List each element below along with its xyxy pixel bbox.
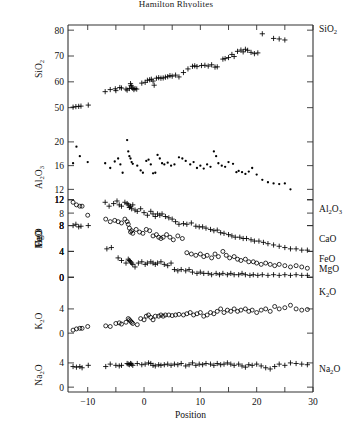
y-axis-label-Na2O: Na2O bbox=[34, 364, 45, 385]
data-point bbox=[130, 202, 135, 207]
data-point bbox=[108, 324, 112, 328]
data-point bbox=[78, 104, 83, 109]
data-point bbox=[185, 251, 189, 255]
data-point bbox=[260, 31, 265, 36]
data-point bbox=[128, 259, 133, 264]
data-point bbox=[163, 75, 168, 80]
data-point bbox=[136, 164, 138, 166]
data-point bbox=[152, 172, 154, 174]
data-point bbox=[208, 227, 213, 232]
data-point bbox=[86, 102, 91, 107]
data-point bbox=[305, 266, 309, 270]
data-point bbox=[127, 258, 132, 263]
data-point bbox=[232, 272, 237, 277]
data-point bbox=[139, 362, 144, 367]
data-point bbox=[271, 242, 276, 247]
y-tick-label-MgO: 4 bbox=[59, 247, 64, 257]
data-point bbox=[214, 271, 219, 276]
data-point bbox=[299, 248, 304, 253]
data-point bbox=[264, 307, 268, 311]
data-point bbox=[294, 272, 299, 277]
data-point bbox=[119, 363, 124, 368]
data-point bbox=[215, 227, 220, 232]
series-K2O bbox=[71, 303, 309, 332]
data-point bbox=[223, 56, 228, 61]
data-point bbox=[271, 36, 276, 41]
data-point bbox=[268, 309, 272, 313]
data-point bbox=[107, 204, 112, 209]
data-point bbox=[162, 362, 167, 367]
data-point bbox=[127, 362, 132, 367]
data-point bbox=[267, 181, 269, 183]
data-point bbox=[221, 231, 226, 236]
data-point bbox=[111, 201, 116, 206]
data-point bbox=[143, 262, 148, 267]
data-point bbox=[282, 245, 287, 250]
data-point bbox=[251, 272, 256, 277]
data-point bbox=[226, 232, 231, 237]
data-point bbox=[119, 163, 121, 165]
data-point bbox=[156, 362, 161, 367]
data-point bbox=[201, 271, 206, 276]
data-point bbox=[209, 166, 211, 168]
data-point bbox=[145, 260, 150, 265]
y-tick-label-MgO: 0 bbox=[59, 273, 64, 283]
data-point bbox=[203, 226, 208, 231]
x-tick-label: −10 bbox=[80, 397, 95, 407]
series-label-CaO: CaO bbox=[319, 234, 337, 244]
data-point bbox=[86, 213, 90, 217]
data-point bbox=[184, 222, 189, 227]
data-point bbox=[217, 272, 222, 277]
y-tick-label-Al2O3: 16 bbox=[55, 161, 65, 171]
data-point bbox=[158, 363, 163, 368]
data-point bbox=[165, 263, 170, 268]
data-point bbox=[172, 362, 177, 367]
data-point bbox=[128, 204, 133, 209]
data-point bbox=[173, 219, 178, 224]
series-CaO bbox=[70, 198, 309, 252]
data-point bbox=[76, 224, 81, 229]
data-point bbox=[256, 238, 261, 243]
data-point bbox=[157, 213, 162, 218]
data-point bbox=[263, 365, 268, 370]
data-point bbox=[159, 211, 164, 216]
data-point bbox=[277, 307, 281, 311]
data-point bbox=[108, 362, 113, 367]
data-point bbox=[108, 87, 113, 92]
data-point bbox=[268, 262, 272, 266]
data-point bbox=[305, 308, 309, 312]
data-point bbox=[153, 262, 158, 267]
data-point bbox=[109, 245, 114, 250]
series-label-Na2O: Na2O bbox=[319, 364, 340, 375]
data-point bbox=[132, 264, 137, 269]
data-point bbox=[189, 220, 194, 225]
data-point bbox=[254, 362, 259, 367]
data-point bbox=[215, 155, 217, 157]
data-point bbox=[235, 49, 240, 54]
data-point bbox=[185, 66, 190, 71]
data-point bbox=[109, 167, 111, 169]
data-point bbox=[294, 361, 299, 366]
data-point bbox=[117, 202, 122, 207]
data-point bbox=[247, 273, 252, 278]
data-point bbox=[193, 363, 198, 368]
data-point bbox=[73, 222, 78, 227]
data-point bbox=[185, 160, 187, 162]
data-point bbox=[74, 365, 79, 370]
figure: Hamilton Rhyolites −100102030Position506… bbox=[0, 0, 352, 430]
data-point bbox=[194, 64, 199, 69]
data-point bbox=[127, 150, 129, 152]
data-point bbox=[125, 201, 130, 206]
data-point bbox=[132, 207, 137, 212]
data-point bbox=[190, 270, 195, 275]
data-point bbox=[289, 188, 291, 190]
series-label-FeO: FeO bbox=[319, 254, 336, 264]
data-point bbox=[70, 105, 75, 110]
series-label-Al2O3: Al2O3 bbox=[319, 204, 343, 215]
data-point bbox=[259, 308, 263, 312]
data-point bbox=[219, 307, 223, 311]
data-point bbox=[225, 272, 230, 277]
data-point bbox=[86, 363, 91, 368]
data-point bbox=[294, 246, 299, 251]
data-point bbox=[166, 215, 171, 220]
